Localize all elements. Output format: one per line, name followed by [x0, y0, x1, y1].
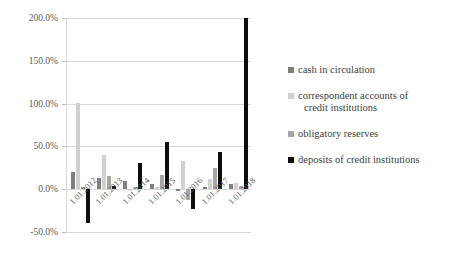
legend-label: correspondent accounts ofcredit institut… — [298, 90, 408, 114]
bar — [71, 172, 75, 189]
y-axis-tick-label: 50.0% — [0, 142, 58, 151]
legend-swatch-icon — [288, 67, 294, 73]
bar — [97, 178, 101, 189]
legend-item[interactable]: correspondent accounts ofcredit institut… — [288, 90, 456, 114]
bar — [229, 184, 233, 189]
bar-chart: 200.0%150.0%100.0%50.0%0.0%-50.0% 1.01.2… — [0, 0, 456, 267]
legend-item[interactable]: deposits of credit institutions — [288, 154, 456, 166]
bar — [76, 103, 80, 189]
y-axis-tick-label: 100.0% — [0, 100, 58, 109]
y-axis-tick-label: 150.0% — [0, 57, 58, 66]
legend-swatch-icon — [288, 131, 294, 137]
bar — [150, 184, 154, 189]
y-axis-labels: 200.0%150.0%100.0%50.0%0.0%-50.0% — [0, 18, 62, 232]
x-axis-labels: 1.01.20121.01.20131.01.20141.01.20151.01… — [66, 196, 266, 266]
legend-label: cash in circulation — [298, 64, 375, 76]
legend-item[interactable]: obligatory reserves — [288, 128, 456, 140]
y-axis-tick-label: -50.0% — [0, 228, 58, 237]
legend-label: deposits of credit institutions — [298, 154, 420, 166]
y-axis-tick-label: 0.0% — [0, 185, 58, 194]
bar — [181, 161, 185, 189]
legend-swatch-icon — [288, 157, 294, 163]
legend-label: obligatory reserves — [298, 128, 378, 140]
legend-item[interactable]: cash in circulation — [288, 64, 456, 76]
chart-legend: cash in circulationcorrespondent account… — [288, 64, 456, 180]
bar — [176, 189, 180, 191]
bar — [102, 155, 106, 189]
legend-label-continuation: credit institutions — [298, 102, 408, 114]
bar — [203, 187, 207, 190]
bar — [244, 18, 248, 189]
y-axis-tick-label: 200.0% — [0, 14, 58, 23]
legend-swatch-icon — [288, 93, 294, 99]
